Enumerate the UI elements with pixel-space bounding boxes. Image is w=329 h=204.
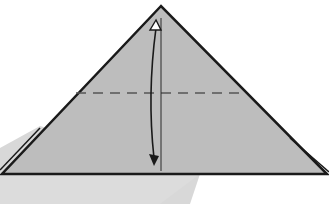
origami-diagram — [0, 0, 329, 204]
paper-triangle — [2, 6, 327, 174]
